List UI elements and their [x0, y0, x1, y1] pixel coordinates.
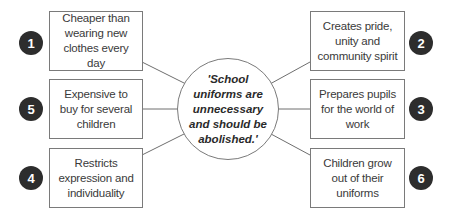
- argument-text-6: Children grow out of their uniforms: [315, 156, 400, 201]
- central-statement: 'School uniforms are unnecessary and sho…: [177, 58, 279, 160]
- number-badge-2: 2: [409, 31, 433, 55]
- number-badge-3: 3: [409, 97, 433, 121]
- argument-box-3: Prepares pupils for the world of work: [310, 79, 405, 139]
- number-badge-6: 6: [409, 166, 433, 190]
- argument-text-2: Creates pride, unity and community spiri…: [315, 19, 400, 64]
- connector-2: [270, 62, 310, 84]
- number-badge-5: 5: [19, 97, 43, 121]
- connector-6: [271, 134, 310, 155]
- argument-box-2: Creates pride, unity and community spiri…: [310, 11, 405, 71]
- connector-1: [142, 62, 186, 84]
- number-badge-1: 1: [19, 31, 43, 55]
- argument-box-6: Children grow out of their uniforms: [310, 148, 405, 208]
- argument-box-5: Expensive to buy for several children: [49, 79, 143, 139]
- connector-4: [142, 134, 184, 155]
- argument-text-1: Cheaper than wearing new clothes every d…: [54, 11, 138, 71]
- argument-text-4: Restricts expression and individuality: [54, 156, 138, 201]
- argument-text-5: Expensive to buy for several children: [54, 87, 138, 132]
- number-badge-4: 4: [19, 166, 43, 190]
- argument-text-3: Prepares pupils for the world of work: [315, 87, 400, 132]
- argument-box-1: Cheaper than wearing new clothes every d…: [49, 11, 143, 71]
- central-statement-text: 'School uniforms are unnecessary and sho…: [186, 72, 270, 147]
- argument-box-4: Restricts expression and individuality: [49, 148, 143, 208]
